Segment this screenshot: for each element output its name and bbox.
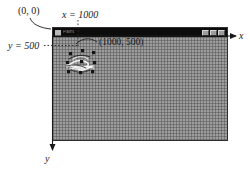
origin-coordinate-label: (0, 0) — [18, 6, 40, 16]
handle-dot — [93, 61, 96, 64]
y-axis-label: y — [45, 154, 49, 164]
client-drawing-layer — [53, 37, 227, 140]
window-title-bar[interactable]: Paint — [53, 28, 227, 37]
x-axis-label: x — [239, 31, 243, 41]
close-button[interactable] — [218, 30, 225, 36]
scribble-dark-accents — [67, 55, 90, 72]
maximize-button[interactable] — [210, 30, 217, 36]
window-title-text: Paint — [63, 30, 202, 35]
x-coordinate-guide-label: x = 1000 — [62, 10, 98, 20]
point-coordinate-label: (1000, 500) — [99, 38, 143, 48]
handle-dot — [80, 60, 83, 63]
handle-dot — [79, 71, 82, 74]
selection-handle-dots[interactable] — [66, 49, 96, 74]
handle-dot — [66, 61, 69, 64]
minimize-button[interactable] — [202, 30, 209, 36]
origin-leader-line — [30, 18, 51, 29]
handle-dot — [91, 70, 94, 73]
handle-dot — [67, 70, 70, 73]
coordinate-system-figure: Paint — [0, 0, 250, 172]
handle-dot — [69, 52, 72, 55]
handle-dot — [92, 51, 95, 54]
handle-dot — [81, 49, 84, 52]
window-control-buttons[interactable] — [202, 30, 225, 36]
y-coordinate-guide-label: y = 500 — [8, 41, 39, 51]
window-app-icon — [55, 30, 61, 36]
window-client-area[interactable] — [53, 37, 227, 140]
scribble-stroke — [66, 57, 94, 71]
